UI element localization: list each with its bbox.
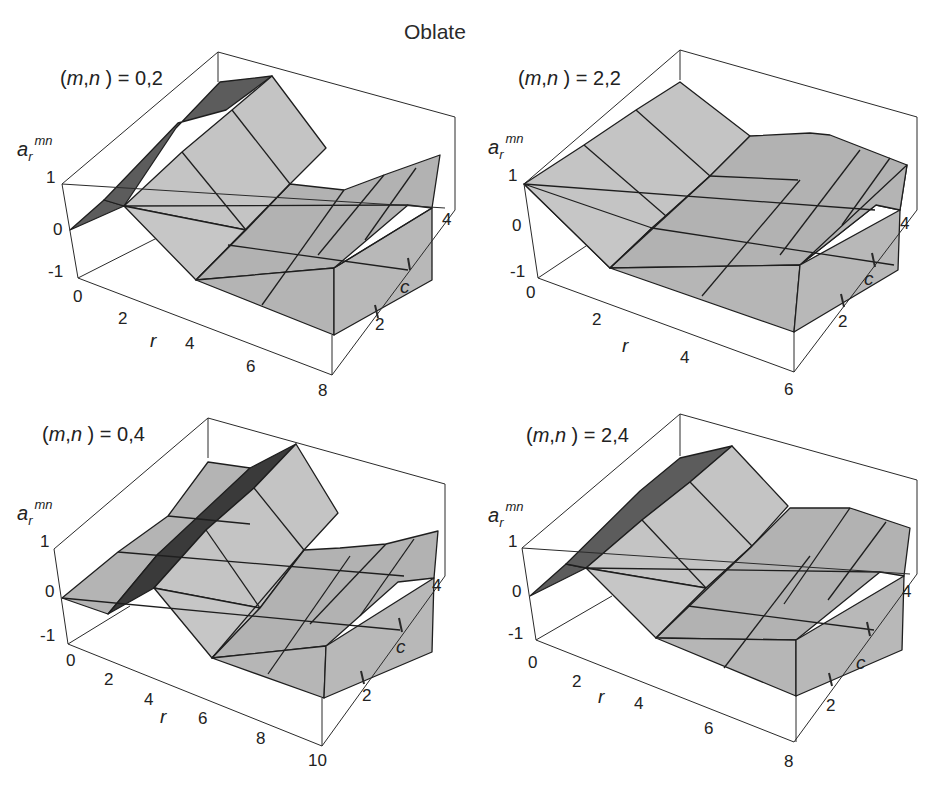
- x-tick: 0: [73, 287, 82, 307]
- x-tick: 2: [118, 309, 127, 329]
- x-tick: 4: [634, 694, 643, 714]
- y-tick: 2: [826, 696, 835, 716]
- x-tick: 8: [256, 729, 265, 749]
- x-tick: 0: [526, 283, 535, 303]
- x-axis-label: r: [598, 686, 604, 708]
- x-axis-label: r: [622, 335, 628, 357]
- x-tick: 4: [144, 690, 153, 710]
- x-tick: 8: [784, 752, 793, 772]
- y-axis-label: c: [856, 652, 866, 674]
- z-axis-label: armn: [17, 500, 53, 528]
- x-tick: 4: [680, 348, 689, 368]
- y-tick: 2: [838, 312, 847, 332]
- y-axis-label: c: [864, 268, 874, 290]
- surface-plot-0-2: [0, 0, 470, 396]
- z-tick: 0: [512, 582, 521, 602]
- z-tick: 1: [46, 168, 55, 188]
- y-axis-label: c: [396, 636, 406, 658]
- z-axis-label: armn: [488, 502, 524, 530]
- z-tick: 1: [508, 166, 517, 186]
- z-tick: 1: [40, 532, 49, 552]
- z-tick: -1: [508, 624, 523, 644]
- y-tick: 4: [442, 210, 451, 230]
- panel-0-2: (m,n ) = 0,2 armn 1 0 -1 0 2 4 6 8 r 2 4…: [0, 0, 470, 396]
- x-tick: 2: [104, 670, 113, 690]
- x-tick: 0: [528, 653, 537, 673]
- x-tick: 6: [246, 357, 255, 377]
- z-tick: 0: [53, 220, 62, 240]
- z-axis-label: armn: [488, 134, 524, 162]
- x-axis-label: r: [160, 706, 166, 728]
- x-tick: 2: [592, 310, 601, 330]
- x-tick: 6: [198, 709, 207, 729]
- z-tick: 0: [512, 216, 521, 236]
- x-tick: 4: [185, 334, 194, 354]
- panel-label: (m,n ) = 0,4: [42, 423, 145, 446]
- y-tick: 4: [432, 576, 441, 596]
- y-axis-label: c: [400, 276, 410, 298]
- z-tick: -1: [40, 626, 55, 646]
- y-tick: 4: [902, 582, 911, 602]
- panel-0-4: (m,n ) = 0,4 armn 1 0 -1 0 2 4 6 8 10 r …: [0, 396, 470, 792]
- x-tick: 10: [308, 751, 327, 771]
- z-tick: 0: [45, 582, 54, 602]
- y-tick: 2: [375, 315, 384, 335]
- z-tick: 1: [508, 532, 517, 552]
- surface-plot-0-4: [0, 396, 470, 792]
- panel-label: (m,n ) = 2,2: [518, 67, 621, 90]
- panel-2-2: (m,n ) = 2,2 armn 1 0 -1 0 2 4 6 r 2 4 c: [470, 0, 940, 396]
- x-tick: 6: [704, 719, 713, 739]
- x-tick: 2: [572, 672, 581, 692]
- z-tick: -1: [48, 262, 63, 282]
- y-tick: 2: [362, 686, 371, 706]
- x-tick: 0: [66, 651, 75, 671]
- z-tick: -1: [510, 262, 525, 282]
- panel-label: (m,n ) = 0,2: [60, 67, 163, 90]
- y-tick: 4: [900, 214, 909, 234]
- z-axis-label: armn: [17, 136, 53, 164]
- x-axis-label: r: [150, 330, 156, 352]
- surface-plot-2-2: [470, 0, 940, 396]
- panel-label: (m,n ) = 2,4: [526, 424, 629, 447]
- panel-2-4: (m,n ) = 2,4 armn 1 0 -1 0 2 4 6 8 r 2 4…: [470, 396, 940, 792]
